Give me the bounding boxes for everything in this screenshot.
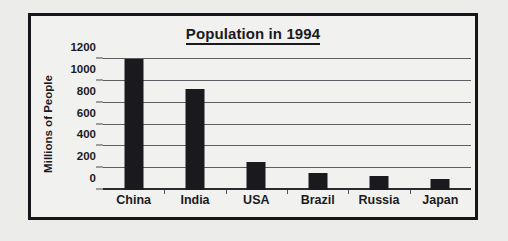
- y-tick-mark: [96, 101, 103, 102]
- y-tick-mark: [96, 123, 103, 124]
- bar-slot: [226, 59, 287, 190]
- y-tick-label: 0: [90, 172, 96, 184]
- bar-slot: [164, 59, 225, 190]
- chart-title: Population in 1994: [31, 25, 475, 42]
- bar-india: [185, 89, 204, 190]
- y-tick-mark: [96, 79, 103, 80]
- y-axis-title: Millions of People: [37, 54, 59, 194]
- bar-china: [124, 59, 143, 190]
- chart-title-text: Population in 1994: [186, 25, 320, 45]
- x-tick-label-india: India: [164, 193, 225, 207]
- y-axis-title-text: Millions of People: [42, 75, 54, 173]
- y-tick-label: 1200: [70, 41, 96, 53]
- bars-group: [103, 59, 471, 190]
- bar-slot: [348, 59, 409, 190]
- bar-russia: [369, 176, 388, 190]
- y-tick-label: 200: [77, 150, 96, 162]
- y-tick-mark: [96, 58, 103, 59]
- x-axis-labels: ChinaIndiaUSABrazilRussiaJapan: [103, 193, 471, 207]
- page-background: Population in 1994 Millions of People 02…: [0, 0, 508, 241]
- y-tick-label: 400: [77, 128, 96, 140]
- bar-slot: [103, 59, 164, 190]
- bar-slot: [410, 59, 471, 190]
- x-tick-label-brazil: Brazil: [287, 193, 348, 207]
- bar-japan: [431, 179, 450, 190]
- y-tick-label: 600: [77, 107, 96, 119]
- x-tick-label-russia: Russia: [348, 193, 409, 207]
- y-tick-mark: [96, 167, 103, 168]
- y-tick-label: 1000: [70, 63, 96, 75]
- bar-usa: [247, 162, 266, 190]
- x-tick-label-usa: USA: [226, 193, 287, 207]
- plot-area: 020040060080010001200: [103, 59, 471, 190]
- bar-slot: [287, 59, 348, 190]
- y-tick-label: 800: [77, 85, 96, 97]
- y-tick-mark: [96, 189, 103, 190]
- bar-brazil: [308, 173, 327, 190]
- x-tick-label-japan: Japan: [410, 193, 471, 207]
- x-tick-label-china: China: [103, 193, 164, 207]
- y-tick-mark: [96, 145, 103, 146]
- chart-frame: Population in 1994 Millions of People 02…: [28, 13, 478, 220]
